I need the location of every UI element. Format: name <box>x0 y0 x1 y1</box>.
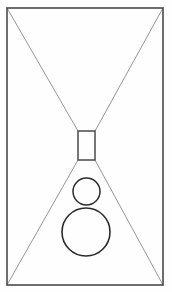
geometric-line-diagram <box>0 0 172 292</box>
diagram-canvas <box>0 0 172 292</box>
center-rectangle-rect <box>78 131 95 160</box>
